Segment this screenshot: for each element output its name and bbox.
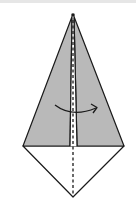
right-flap — [73, 14, 124, 146]
origami-diagram — [0, 0, 136, 216]
left-flap — [23, 14, 73, 146]
